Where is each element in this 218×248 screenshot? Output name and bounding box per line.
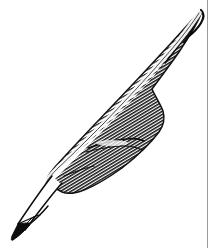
quill-pen-illustration: Quill pen drawn as engraved line art xyxy=(0,0,218,248)
right-margin-rule xyxy=(207,0,208,248)
illustration-canvas: Quill pen drawn as engraved line art xyxy=(0,0,218,248)
